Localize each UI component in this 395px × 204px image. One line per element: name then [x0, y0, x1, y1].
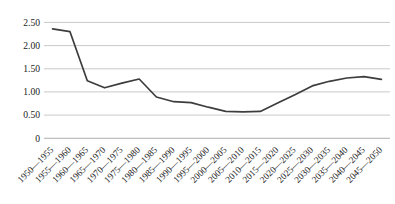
y-axis-tick-label: 1.50: [23, 63, 40, 74]
data-line-series: [53, 29, 382, 112]
y-axis-tick-label: 2.50: [23, 17, 40, 28]
y-axis-tick-label: 0.50: [23, 109, 40, 120]
chart-svg: 00.501.001.502.002.501950—19551955—19601…: [0, 0, 395, 204]
chart-figure: 00.501.001.502.002.501950—19551955—19601…: [0, 0, 395, 204]
y-axis-tick-label: 0: [35, 133, 40, 144]
y-axis-tick-label: 2.00: [23, 40, 40, 51]
y-axis-tick-label: 1.00: [23, 86, 40, 97]
